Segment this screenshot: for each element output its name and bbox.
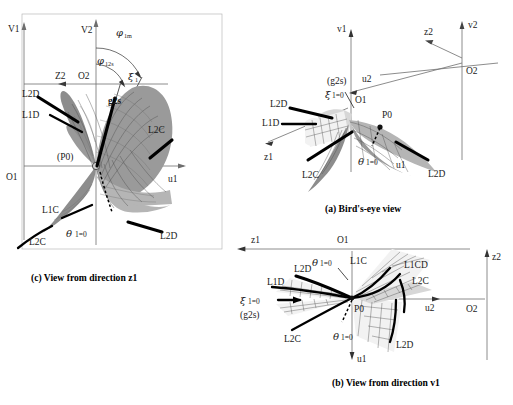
label-b-L2C-right: L2C	[412, 276, 429, 286]
label-g2s: g2s	[108, 96, 122, 106]
label-a-theta-1: θ 1=0	[358, 156, 378, 167]
label-b-L2D-right: L2D	[396, 340, 414, 350]
axis-label-u1: u1	[168, 174, 178, 184]
b-point-P0-marker	[350, 296, 355, 301]
label-a-L2D-right: L2D	[428, 169, 446, 179]
label-b-theta-lower: θ 1=0	[333, 331, 353, 342]
b-xi-eq: 1=0	[248, 297, 260, 306]
label-a-L2D-left: L2D	[270, 99, 288, 109]
label-c-L2C-lower: L2C	[29, 237, 46, 247]
xi-1-subscript: 1	[135, 76, 138, 83]
label-a-xi-1: ξ 1=0	[325, 89, 344, 100]
a-axis-label-z2: z2	[424, 27, 433, 37]
axis-label-V1: V1	[8, 24, 20, 34]
label-b-xi-1: ξ 1=0	[240, 295, 260, 306]
label-b-L2D-left: L2D	[294, 264, 312, 274]
caption-a: (a) Bird's-eye view	[325, 203, 401, 215]
surface-a-left-endcap	[305, 118, 318, 146]
a-axis-v1-arrow	[349, 29, 354, 37]
b-axis-label-z1: z1	[251, 235, 260, 245]
a-xi-eq: 1=0	[332, 91, 344, 100]
label-a-g2s: (g2s)	[327, 76, 347, 87]
a-axis-u2-arrow	[349, 90, 357, 95]
surface-c-lower-left-sweep	[40, 166, 96, 234]
a-theta-symbol: θ	[358, 156, 364, 167]
b-axis-label-u1: u1	[357, 354, 367, 364]
b-xi-symbol: ξ	[240, 295, 246, 306]
label-b-theta-upper: θ 1=0	[312, 257, 332, 268]
phi-1m-symbol: φ	[116, 27, 123, 38]
panel-a: v2 z2 O2 v1 O1 u2 z1	[262, 20, 498, 215]
a-axis-v2-arrow	[460, 21, 465, 29]
axis-label-O1: O1	[6, 172, 18, 182]
axis-v2-arrow	[94, 19, 99, 27]
b-theta-upper-eq: 1=0	[320, 259, 332, 268]
label-c-theta-1: θ 1=0	[66, 228, 87, 239]
phi-12s-subscript: 12s	[105, 60, 114, 67]
b-theta-lower-symbol: θ	[333, 331, 339, 342]
figure-canvas: V1 u1 O1 V2 Z2 O2 φ 1m φ 12s ξ	[0, 0, 513, 405]
label-c-L2D-upper: L2D	[22, 89, 40, 99]
axis-z2-arrow	[58, 82, 66, 87]
label-b-L1CD: L1CD	[404, 260, 428, 270]
a-theta-eq: 1=0	[366, 158, 378, 167]
b-axis-u1-arrow	[350, 352, 355, 360]
panel-c: V1 u1 O1 V2 Z2 O2 φ 1m φ 12s ξ	[6, 14, 222, 284]
leader-a-g2s	[345, 92, 354, 108]
curve-c-L2D-lower	[128, 222, 162, 232]
label-b-L1D: L1D	[267, 277, 285, 287]
leader-b-theta-upper	[338, 268, 348, 280]
label-phi-1m: φ 1m	[116, 27, 132, 39]
label-b-P0: P0	[354, 304, 364, 314]
caption-c: (c) View from direction z1	[31, 272, 137, 284]
caption-b: (b) View from direction v1	[332, 377, 440, 389]
figure-root: V1 u1 O1 V2 Z2 O2 φ 1m φ 12s ξ	[0, 0, 513, 405]
b-axis-u2-arrow	[432, 296, 440, 301]
b-axis-label-z2: z2	[492, 252, 501, 262]
b-axis-z2-arrow	[485, 249, 490, 257]
label-b-L1C: L1C	[350, 256, 367, 266]
panel-b: z1 O1 z2 O2 u2 u1	[237, 235, 501, 389]
a-axis-label-O2: O2	[466, 66, 478, 76]
a-axis-label-z1: z1	[264, 152, 273, 162]
b-axis-label-u2: u2	[425, 303, 435, 313]
phi-12s-symbol: φ	[97, 55, 104, 66]
label-c-L1D: L1D	[22, 110, 40, 120]
b-theta-upper-symbol: θ	[312, 257, 318, 268]
xi-1-symbol: ξ	[128, 71, 134, 82]
label-a-L2C: L2C	[302, 170, 319, 180]
label-a-L1D: L1D	[262, 118, 280, 128]
label-b-g2s: (g2s)	[240, 310, 260, 321]
a-axis-z2-line	[428, 42, 462, 58]
a-axis-label-u2: u2	[362, 74, 372, 84]
axis-label-Z2: Z2	[55, 71, 66, 81]
b-axis-z1-arrow	[237, 246, 245, 251]
label-b-L2C-left: L2C	[284, 334, 301, 344]
label-a-P0: P0	[382, 110, 392, 120]
label-P0: (P0)	[57, 152, 73, 163]
label-c-L2C-right: L2C	[148, 125, 165, 135]
b-axis-label-O1: O1	[337, 235, 349, 245]
label-c-L2D-lower: L2D	[160, 231, 178, 241]
label-phi-12s: φ 12s	[97, 55, 114, 67]
c-theta-eq: 1=0	[75, 230, 87, 239]
b-axis-label-O2: O2	[466, 304, 478, 314]
axis-u1-arrow	[178, 164, 186, 169]
phi-1m-subscript: 1m	[124, 32, 132, 39]
b-theta-lower-eq: 1=0	[341, 333, 353, 342]
a-axis-label-O1: O1	[355, 95, 367, 105]
axis-label-V2: V2	[81, 25, 93, 35]
label-c-L1C: L1C	[42, 205, 59, 215]
c-theta-symbol: θ	[66, 228, 72, 239]
a-xi-symbol: ξ	[325, 89, 331, 100]
axis-label-O2: O2	[78, 71, 90, 81]
a-axis-label-u1: u1	[396, 160, 406, 170]
a-axis-label-v1: v1	[337, 24, 347, 34]
a-axis-label-v2: v2	[468, 20, 478, 30]
